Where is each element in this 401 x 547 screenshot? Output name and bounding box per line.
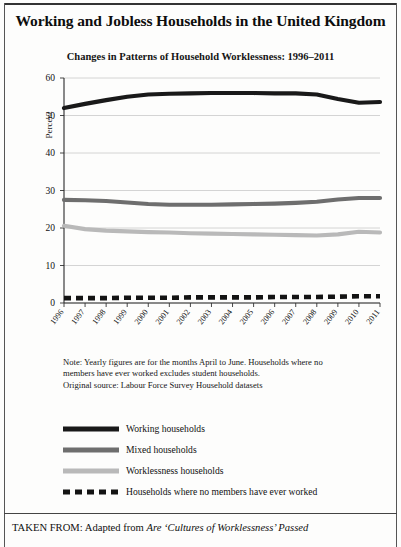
x-tick-label: 1999 bbox=[112, 308, 129, 326]
y-tick-label: 40 bbox=[46, 148, 56, 158]
solid-line-icon bbox=[63, 468, 119, 473]
solid-line-icon bbox=[63, 426, 119, 431]
caption-prefix: TAKEN FROM: Adapted from bbox=[12, 522, 147, 533]
note-line-2: members have ever worked excludes studen… bbox=[63, 368, 388, 379]
series-line-0 bbox=[64, 93, 380, 108]
grid-lines bbox=[64, 78, 380, 303]
legend-swatch-icon bbox=[63, 423, 119, 435]
chart-subtitle: Changes in Patterns of Household Workles… bbox=[0, 51, 401, 62]
legend-item[interactable]: Mixed households bbox=[63, 439, 393, 460]
x-tick-label: 2002 bbox=[175, 308, 192, 326]
legend-item-label: Households where no members have ever wo… bbox=[126, 486, 317, 497]
solid-line-icon bbox=[63, 447, 119, 452]
x-tick-label: 2000 bbox=[133, 308, 150, 326]
legend-swatch-icon bbox=[63, 465, 119, 477]
y-tick-label: 60 bbox=[46, 73, 56, 83]
frame-top-rule bbox=[4, 3, 397, 5]
x-tick-label: 2009 bbox=[322, 308, 339, 326]
x-tick-label: 2006 bbox=[259, 308, 276, 326]
x-axis-labels: 1996199719981999200020012002200320042005… bbox=[48, 308, 381, 326]
y-tick-label: 30 bbox=[46, 186, 56, 196]
x-tick-label: 2011 bbox=[365, 308, 382, 326]
y-tick-label: 50 bbox=[46, 111, 56, 121]
series-line-2 bbox=[64, 226, 380, 236]
x-tick-label: 2001 bbox=[154, 308, 171, 326]
y-tick-label: 10 bbox=[46, 261, 56, 271]
source-caption: TAKEN FROM: Adapted from Are ‘Cultures o… bbox=[12, 521, 392, 535]
legend-item[interactable]: Households where no members have ever wo… bbox=[63, 481, 393, 502]
legend-item[interactable]: Worklessness households bbox=[63, 460, 393, 481]
legend-item-label: Working households bbox=[126, 423, 205, 434]
y-axis-ticks: 0102030405060 bbox=[46, 73, 65, 308]
bottom-rule bbox=[4, 513, 397, 514]
line-chart: 0102030405060 19961997199819992000200120… bbox=[0, 70, 401, 345]
page-title: Working and Jobless Households in the Un… bbox=[0, 12, 401, 30]
legend-item[interactable]: Working households bbox=[63, 418, 393, 439]
series-line-3 bbox=[64, 296, 380, 298]
legend-item-label: Mixed households bbox=[126, 444, 197, 455]
x-tick-label: 2005 bbox=[238, 308, 255, 326]
series-line-1 bbox=[64, 198, 380, 205]
legend-swatch-icon bbox=[63, 444, 119, 456]
x-tick-label: 2008 bbox=[301, 308, 318, 326]
chart-legend: Working householdsMixed householdsWorkle… bbox=[63, 418, 393, 502]
x-tick-label: 2003 bbox=[196, 308, 213, 326]
x-tick-label: 2007 bbox=[280, 308, 297, 326]
note-line-3: Original source: Labour Force Survey Hou… bbox=[63, 380, 388, 391]
legend-swatch-icon bbox=[63, 486, 119, 498]
y-tick-label: 0 bbox=[50, 298, 55, 308]
x-axis-ticks bbox=[64, 303, 380, 307]
caption-italic-title: Are ‘Cultures of Worklessness’ Passed bbox=[147, 522, 309, 533]
data-series-group bbox=[64, 93, 380, 298]
legend-item-label: Worklessness households bbox=[126, 465, 224, 476]
x-tick-label: 1997 bbox=[69, 308, 86, 326]
x-tick-label: 2010 bbox=[343, 308, 360, 326]
y-tick-label: 20 bbox=[46, 223, 56, 233]
x-tick-label: 2004 bbox=[217, 308, 234, 326]
x-tick-label: 1996 bbox=[48, 308, 65, 326]
chart-notes: Note: Yearly figures are for the months … bbox=[63, 357, 388, 391]
dashed-line-icon bbox=[63, 489, 119, 494]
note-line-1: Note: Yearly figures are for the months … bbox=[63, 357, 388, 368]
figure-page: Working and Jobless Households in the Un… bbox=[0, 0, 401, 547]
x-tick-label: 1998 bbox=[91, 308, 108, 326]
chart-svg: 0102030405060 19961997199819992000200120… bbox=[0, 70, 401, 345]
